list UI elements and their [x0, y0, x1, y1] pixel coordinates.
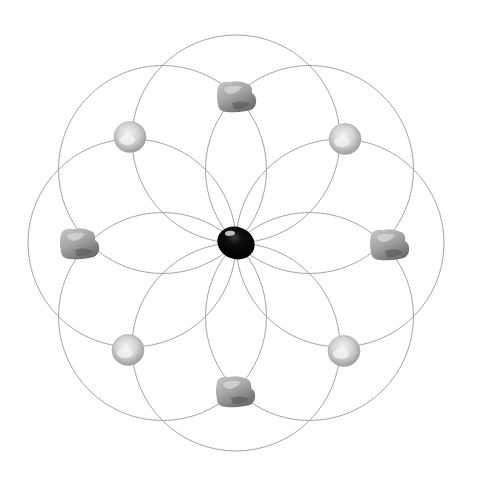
grid-circle-0 [132, 35, 340, 243]
center-stone-layer [213, 221, 260, 264]
round-stone-bottom-left [112, 335, 144, 366]
round-stone-top-right [329, 124, 361, 155]
grid-circle-4 [132, 243, 340, 451]
rough-stone-left [60, 228, 99, 259]
rough-stone-top [217, 81, 256, 112]
black-tumbled-stone [213, 221, 260, 264]
round-stone-bottom-right [328, 336, 360, 367]
round-stone-top-left [114, 122, 146, 153]
grid-circle-2 [236, 139, 444, 347]
rough-stone-right [370, 229, 409, 260]
grid-circle-6 [28, 139, 236, 347]
crystal-grid-diagram [0, 0, 483, 477]
rough-stone-bottom [216, 376, 255, 407]
